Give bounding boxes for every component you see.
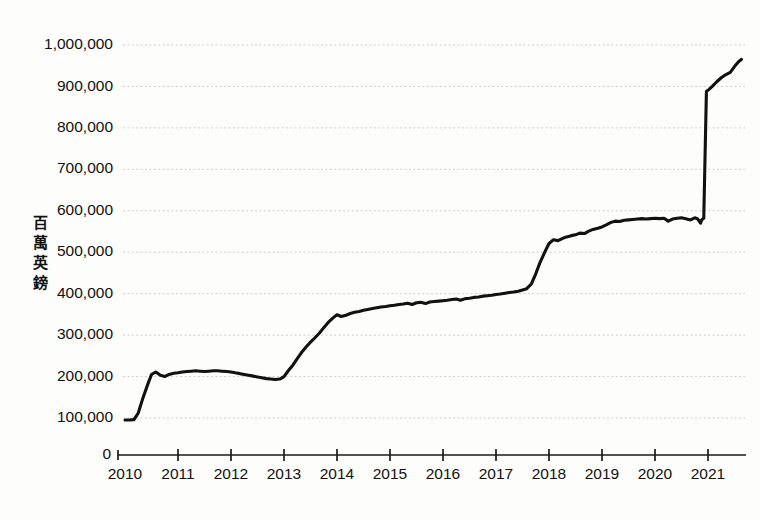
y-tick-label: 700,000 (57, 159, 113, 176)
y-tick-label: 300,000 (57, 325, 113, 342)
chart-container: 100,000200,000300,000400,000500,000600,0… (0, 0, 760, 520)
series-line (125, 60, 741, 421)
y-axis-title: 百萬英鎊 (33, 214, 49, 292)
axis-origin-label: 0 (102, 445, 111, 462)
x-axis (118, 449, 746, 461)
y-tick-label: 1,000,000 (44, 35, 113, 52)
x-tick-label: 2017 (479, 465, 513, 482)
y-axis-title-char: 萬 (33, 234, 48, 252)
x-tick-label: 2021 (691, 465, 725, 482)
data-series (125, 60, 741, 421)
y-tick-label: 400,000 (57, 284, 113, 301)
x-tick-label: 2013 (267, 465, 301, 482)
x-tick-label: 2014 (320, 465, 355, 482)
x-tick-label: 2020 (638, 465, 673, 482)
y-tick-label: 100,000 (57, 408, 113, 425)
y-tick-label: 200,000 (57, 367, 113, 384)
zero-tick-label: 0 (102, 445, 111, 462)
y-axis-tick-labels: 100,000200,000300,000400,000500,000600,0… (44, 35, 113, 425)
line-chart: 100,000200,000300,000400,000500,000600,0… (0, 0, 760, 520)
y-axis-title-char: 百 (33, 214, 48, 232)
x-tick-label: 2010 (108, 465, 143, 482)
y-axis-title-char: 鎊 (33, 274, 48, 292)
x-tick-label: 2015 (373, 465, 407, 482)
x-axis-tick-labels: 2010201120122013201420152016201720182019… (108, 465, 725, 482)
x-tick-label: 2011 (161, 465, 194, 482)
x-tick-label: 2019 (585, 465, 619, 482)
y-tick-label: 800,000 (57, 118, 113, 135)
y-tick-label: 500,000 (57, 242, 113, 259)
x-tick-label: 2016 (426, 465, 460, 482)
y-axis-title-char: 英 (33, 254, 49, 272)
gridlines (123, 45, 745, 418)
x-tick-label: 2018 (532, 465, 566, 482)
y-tick-label: 900,000 (57, 77, 113, 94)
y-tick-label: 600,000 (57, 201, 113, 218)
x-tick-label: 2012 (214, 465, 248, 482)
